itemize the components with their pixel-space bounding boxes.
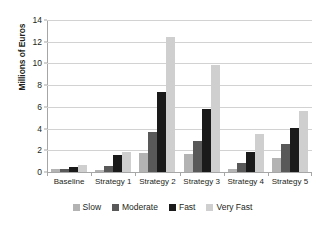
bar-very-fast[interactable]	[299, 111, 308, 172]
x-label-baseline: Baseline	[47, 178, 91, 186]
x-label-strategy-4: Strategy 4	[224, 178, 268, 186]
category-tick	[91, 172, 92, 176]
legend-swatch-icon	[169, 204, 176, 211]
legend-item-fast[interactable]: Fast	[169, 203, 196, 212]
y-tick-label: 14	[33, 16, 42, 25]
bar-fast[interactable]	[113, 155, 122, 172]
bar-slow[interactable]	[51, 169, 60, 172]
bar-very-fast[interactable]	[122, 152, 131, 172]
category-tick	[47, 172, 48, 176]
bar-fast[interactable]	[157, 92, 166, 172]
bar-group-strategy-3	[180, 20, 224, 172]
bar-group-strategy-5	[268, 20, 312, 172]
legend-label: Very Fast	[216, 203, 252, 212]
y-tick-label: 8	[37, 81, 42, 90]
bar-group-strategy-4	[224, 20, 268, 172]
bar-fast[interactable]	[290, 128, 299, 172]
y-tick-label: 0	[37, 168, 42, 177]
bar-slow[interactable]	[139, 153, 148, 172]
bar-very-fast[interactable]	[211, 65, 220, 172]
bar-fast[interactable]	[202, 109, 211, 172]
x-label-strategy-2: Strategy 2	[135, 178, 179, 186]
y-tick-label: 10	[33, 59, 42, 68]
bar-moderate[interactable]	[60, 169, 69, 172]
legend-swatch-icon	[73, 204, 80, 211]
chart-legend: SlowModerateFastVery Fast	[0, 203, 325, 212]
x-label-strategy-1: Strategy 1	[91, 178, 135, 186]
bar-moderate[interactable]	[104, 166, 113, 173]
bar-fast[interactable]	[246, 152, 255, 172]
category-tick	[135, 172, 136, 176]
bar-moderate[interactable]	[281, 144, 290, 172]
bar-very-fast[interactable]	[78, 165, 87, 172]
y-tick-label: 6	[37, 103, 42, 112]
bar-very-fast[interactable]	[255, 134, 264, 172]
legend-swatch-icon	[206, 204, 213, 211]
y-tick-label: 2	[37, 146, 42, 155]
bar-moderate[interactable]	[237, 163, 246, 172]
legend-item-very-fast[interactable]: Very Fast	[206, 203, 252, 212]
y-tick-label: 12	[33, 37, 42, 46]
bar-groups	[47, 20, 312, 172]
y-tick-label: 4	[37, 124, 42, 133]
category-tick	[311, 172, 312, 176]
bar-fast[interactable]	[69, 167, 78, 172]
category-tick	[268, 172, 269, 176]
x-label-strategy-5: Strategy 5	[268, 178, 312, 186]
bar-slow[interactable]	[184, 154, 193, 172]
bar-very-fast[interactable]	[166, 37, 175, 172]
plot-area: 02468101214	[47, 20, 312, 172]
bar-moderate[interactable]	[148, 132, 157, 172]
bar-slow[interactable]	[228, 169, 237, 172]
category-tick	[180, 172, 181, 176]
bar-chart-figure: Millions of Euros 02468101214 BaselineSt…	[0, 0, 325, 240]
bar-group-baseline	[47, 20, 91, 172]
legend-swatch-icon	[112, 204, 119, 211]
x-axis-labels: BaselineStrategy 1Strategy 2Strategy 3St…	[47, 178, 312, 186]
x-label-strategy-3: Strategy 3	[180, 178, 224, 186]
bar-group-strategy-1	[91, 20, 135, 172]
bar-slow[interactable]	[272, 158, 281, 172]
bar-slow[interactable]	[95, 170, 104, 172]
y-axis-title: Millions of Euros	[17, 0, 27, 117]
legend-label: Slow	[83, 203, 101, 212]
legend-label: Fast	[179, 203, 196, 212]
bar-group-strategy-2	[135, 20, 179, 172]
legend-label: Moderate	[122, 203, 158, 212]
category-tick	[224, 172, 225, 176]
legend-item-slow[interactable]: Slow	[73, 203, 101, 212]
bar-moderate[interactable]	[193, 141, 202, 172]
legend-item-moderate[interactable]: Moderate	[112, 203, 158, 212]
